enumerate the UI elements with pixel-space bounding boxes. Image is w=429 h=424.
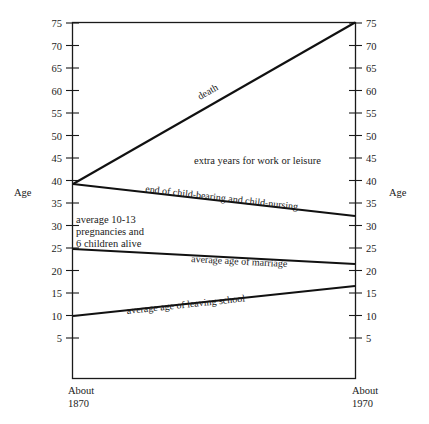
left-tick-label: 75 [52,18,63,29]
annotation-extra-years: extra years for work or leisure [194,155,321,166]
left-axis-title: Age [14,187,32,198]
caption-left-line-1: About [68,385,94,396]
right-tick-label: 10 [366,311,377,322]
chart-background [0,0,429,424]
right-tick-label: 5 [366,333,371,344]
left-tick-label: 35 [52,198,63,209]
right-tick-label: 15 [366,288,377,299]
left-tick-label: 20 [52,266,63,277]
right-tick-label: 30 [366,221,377,232]
right-axis-title: Age [389,187,407,198]
left-tick-label: 70 [52,41,63,52]
left-tick-label: 60 [52,86,63,97]
right-tick-label: 40 [366,176,377,187]
annotation-pregnancies-line-1: average 10-13 [76,214,136,225]
caption-right-line-1: About [352,385,378,396]
right-tick-label: 75 [366,18,377,29]
right-tick-label: 50 [366,131,377,142]
annotation-pregnancies: average 10-13 pregnancies and 6 children… [76,214,145,249]
left-tick-label: 30 [52,221,63,232]
left-tick-label: 25 [52,243,63,254]
life-course-chart: 75 70 65 60 55 50 45 40 35 30 25 20 15 1… [0,0,429,424]
left-tick-label: 40 [52,176,63,187]
left-tick-label: 10 [52,311,63,322]
right-tick-label: 60 [366,86,377,97]
left-tick-label: 55 [52,108,63,119]
caption-left-line-2: 1870 [68,398,89,409]
left-tick-label: 65 [52,63,63,74]
left-tick-label: 5 [57,333,62,344]
annotation-pregnancies-line-2: pregnancies and [76,226,145,237]
right-tick-label: 20 [366,266,377,277]
caption-right-line-2: 1970 [352,398,373,409]
left-tick-label: 15 [52,288,63,299]
right-tick-label: 45 [366,153,377,164]
right-tick-label: 55 [366,108,377,119]
right-tick-label: 70 [366,41,377,52]
right-tick-label: 35 [366,198,377,209]
left-tick-labels: 75 70 65 60 55 50 45 40 35 30 25 20 15 1… [52,18,63,344]
left-tick-label: 45 [52,153,63,164]
left-tick-label: 50 [52,131,63,142]
annotation-pregnancies-line-3: 6 children alive [76,238,142,249]
right-tick-label: 25 [366,243,377,254]
right-tick-labels: 75 70 65 60 55 50 45 40 35 30 25 20 15 1… [366,18,377,344]
right-tick-label: 65 [366,63,377,74]
chart-canvas: 75 70 65 60 55 50 45 40 35 30 25 20 15 1… [0,0,429,424]
